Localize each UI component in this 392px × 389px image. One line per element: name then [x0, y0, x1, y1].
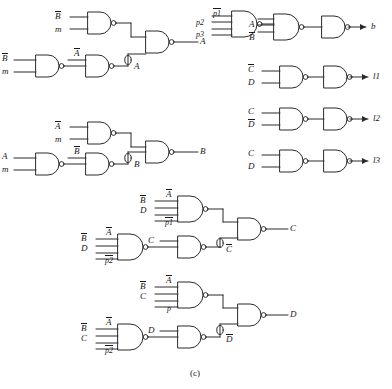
label-c-lower-in2: D: [81, 244, 88, 253]
label-d-upper-in4: p: [167, 304, 171, 313]
label-b-row-in3: p3: [196, 30, 204, 39]
label-b-feedback: B: [134, 160, 140, 169]
label-b-lower-in2: m: [2, 165, 9, 174]
label-d-upper-in2: C: [140, 292, 146, 301]
label-b-lower-in1: A: [2, 152, 8, 161]
label-b-row-in1: p2: [196, 18, 204, 27]
label-c-upper-in1: B: [140, 196, 146, 205]
label-output-l2: l2: [373, 114, 380, 123]
label-l1-in2: D: [248, 78, 255, 87]
figure-caption: (c): [190, 368, 200, 378]
label-a-mid-in: A: [74, 49, 80, 58]
label-d-lower-in1: B: [81, 324, 87, 333]
label-a-feedback: A: [134, 62, 140, 71]
label-b-upper-in1: A: [55, 122, 61, 131]
label-d-lower-in2: C: [81, 334, 87, 343]
label-a-lower-in1: B: [2, 54, 8, 63]
label-c-mid-in: C: [148, 236, 154, 245]
label-a-upper-in1: B: [55, 12, 61, 21]
label-l3-in2: D: [248, 162, 255, 171]
label-c-feedback: C: [226, 245, 232, 254]
label-b-output: B: [200, 147, 206, 156]
label-d-lower-in3: A: [106, 318, 112, 327]
label-c-upper-in3: A: [166, 190, 172, 199]
label-c-upper-in2: D: [140, 206, 147, 215]
label-a-upper-in2: m: [55, 25, 62, 34]
label-b-mid-in: B: [74, 147, 80, 156]
label-b-upper-in2: m: [55, 135, 62, 144]
label-c-lower-in3: A: [106, 228, 112, 237]
label-c-output: C: [290, 224, 296, 233]
label-b-row-in5: B: [249, 33, 255, 42]
label-d-output: D: [290, 310, 297, 319]
label-l3-in1: C: [248, 149, 254, 158]
label-d-upper-in1: B: [140, 282, 146, 291]
label-l2-in1: C: [248, 107, 254, 116]
label-d-upper-in3: A: [166, 276, 172, 285]
circuit-schematic: [0, 0, 392, 389]
label-d-mid-in: D: [148, 326, 155, 335]
label-l2-in2: D: [248, 120, 255, 129]
label-c-lower-in1: B: [81, 234, 87, 243]
label-output-l3: l3: [373, 156, 380, 165]
label-d-feedback: D: [226, 335, 233, 344]
label-c-lower-in4: p2: [105, 256, 113, 265]
label-output-b: b: [371, 22, 376, 31]
label-output-l1: l1: [373, 72, 380, 81]
label-d-lower-in4: p2: [105, 346, 113, 355]
label-c-upper-in4: p1: [165, 218, 173, 227]
label-a-lower-in2: m: [2, 67, 9, 76]
label-b-row-in2: p1: [213, 9, 221, 18]
label-b-row-in4: A: [249, 20, 255, 29]
figure-canvas: B m B m A A A A m A m B B B B D A p1 B D…: [0, 0, 392, 389]
label-l1-in1: C: [248, 65, 254, 74]
